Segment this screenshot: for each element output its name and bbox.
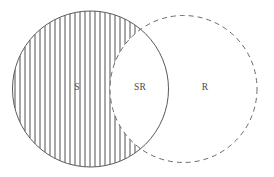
set-r-circle-outline (110, 16, 257, 163)
venn-diagram-canvas: S SR R (0, 0, 274, 177)
set-s-label: S (74, 82, 80, 92)
intersection-sr-label: SR (134, 82, 147, 92)
set-r-label: R (202, 82, 209, 92)
venn-diagram-container: S SR R (0, 0, 274, 177)
